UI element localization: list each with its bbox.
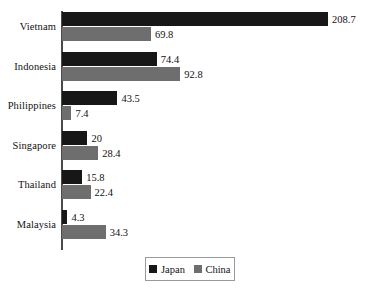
bar-japan-indonesia <box>62 52 157 66</box>
bar-value-label: 4.3 <box>71 211 84 222</box>
category-group: Thailand15.822.4 <box>0 170 375 199</box>
bar-value-label: 34.3 <box>110 226 128 237</box>
bar-japan-vietnam <box>62 12 328 26</box>
bar-value-label: 43.5 <box>121 93 139 104</box>
bar-china-indonesia <box>62 67 180 81</box>
category-group: Malaysia4.334.3 <box>0 210 375 239</box>
legend-entry-china: China <box>194 264 231 275</box>
bar-value-label: 208.7 <box>332 14 356 25</box>
legend-label: Japan <box>161 264 185 275</box>
bar-row: 43.5 <box>62 91 375 105</box>
category-label: Singapore <box>0 140 56 151</box>
category-label: Malaysia <box>0 219 56 230</box>
bar-value-label: 7.4 <box>75 108 88 119</box>
category-label: Indonesia <box>0 61 56 72</box>
bar-row: 208.7 <box>62 12 375 26</box>
category-group: Indonesia74.492.8 <box>0 52 375 81</box>
category-label: Thailand <box>0 179 56 190</box>
bar-value-label: 22.4 <box>95 187 113 198</box>
category-group: Vietnam208.769.8 <box>0 12 375 41</box>
plot-area: Vietnam208.769.8Indonesia74.492.8Philipp… <box>0 0 375 252</box>
bar-chart: Vietnam208.769.8Indonesia74.492.8Philipp… <box>0 0 375 293</box>
legend-swatch-japan <box>149 265 157 273</box>
bar-row: 92.8 <box>62 67 375 81</box>
bar-row: 15.8 <box>62 170 375 184</box>
bar-japan-malaysia <box>62 210 67 224</box>
bar-row: 74.4 <box>62 52 375 66</box>
bar-china-philippines <box>62 106 71 120</box>
category-group: Philippines43.57.4 <box>0 91 375 120</box>
bar-row: 20 <box>62 131 375 145</box>
legend-entry-japan: Japan <box>149 264 184 275</box>
bar-japan-singapore <box>62 131 87 145</box>
legend-label: China <box>205 264 230 275</box>
bar-japan-philippines <box>62 91 117 105</box>
bar-value-label: 28.4 <box>102 147 120 158</box>
bar-row: 4.3 <box>62 210 375 224</box>
category-label: Vietnam <box>0 21 56 32</box>
bar-china-thailand <box>62 185 91 199</box>
bar-china-vietnam <box>62 27 151 41</box>
chart-legend: JapanChina <box>145 257 235 281</box>
bar-value-label: 92.8 <box>184 68 202 79</box>
bar-row: 22.4 <box>62 185 375 199</box>
bar-value-label: 69.8 <box>155 29 173 40</box>
bar-row: 7.4 <box>62 106 375 120</box>
bar-china-singapore <box>62 146 98 160</box>
legend-swatch-china <box>194 265 202 273</box>
bar-row: 34.3 <box>62 225 375 239</box>
category-group: Singapore2028.4 <box>0 131 375 160</box>
bar-value-label: 74.4 <box>161 53 179 64</box>
bar-japan-thailand <box>62 170 82 184</box>
category-label: Philippines <box>0 100 56 111</box>
bar-value-label: 15.8 <box>86 172 104 183</box>
bar-row: 69.8 <box>62 27 375 41</box>
bar-value-label: 20 <box>91 132 102 143</box>
bar-row: 28.4 <box>62 146 375 160</box>
bar-china-malaysia <box>62 225 106 239</box>
